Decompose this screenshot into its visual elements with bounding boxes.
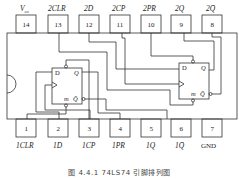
pin-11-label: 2CP: [112, 4, 126, 13]
ic-pinout-diagram: Vcc 2CLR 2D 2CP 2PR 2Q 2Q̄ 14 13 12 11 1…: [0, 0, 239, 180]
pin-3-label: 1CP: [82, 141, 96, 150]
pin-6-num: 6: [180, 125, 184, 133]
pin-11-num: 11: [117, 21, 124, 29]
pin-13-label: 2CLR: [48, 4, 66, 13]
ff1-q-label: Q: [74, 69, 79, 76]
ff2-m-label: m: [191, 90, 196, 97]
pin-1-num: 1: [25, 125, 29, 133]
pin-4-label: 1PR: [112, 141, 125, 150]
pin-4-num: 4: [119, 125, 123, 133]
pin-8-num: 8: [211, 21, 215, 29]
pin-6-label: 1Q̄: [175, 141, 185, 150]
pin-7-num: 7: [211, 125, 215, 133]
pin-12-label: 2D: [84, 4, 94, 13]
chip-body: [7, 33, 237, 119]
pin-13-num: 13: [55, 21, 63, 29]
ff2-q-label: Q: [201, 64, 206, 71]
pin-9-label: 2Q: [175, 4, 185, 13]
pin-2-num: 2: [57, 125, 61, 133]
pin-12-num: 12: [86, 21, 94, 29]
pin-5-num: 5: [150, 125, 154, 133]
pin-7-label: GND: [201, 142, 216, 150]
pin-1-label: 1CLR: [16, 141, 34, 150]
ff2-qbar-label: Q̄: [200, 90, 205, 97]
pin-5-label: 1Q: [146, 141, 156, 150]
figure-caption: 图 4.4.1 74LS74 引脚排列图: [0, 167, 239, 177]
ff2-d-label: D: [182, 64, 187, 71]
chip-notch: [7, 75, 16, 93]
pin-10-num: 10: [148, 21, 156, 29]
ff1-d-label: D: [55, 69, 60, 76]
ff1-qbar-label: Q̄: [73, 95, 78, 102]
pin-14-num: 14: [23, 21, 31, 29]
pin-14-label: Vcc: [20, 4, 30, 14]
pin-9-num: 9: [180, 21, 184, 29]
pin-8-label: 2Q̄: [206, 4, 216, 13]
ff1-m-label: m: [64, 95, 69, 102]
pin-10-label: 2PR: [143, 4, 156, 13]
pin-2-label: 1D: [53, 141, 63, 150]
pin-3-num: 3: [88, 125, 92, 133]
